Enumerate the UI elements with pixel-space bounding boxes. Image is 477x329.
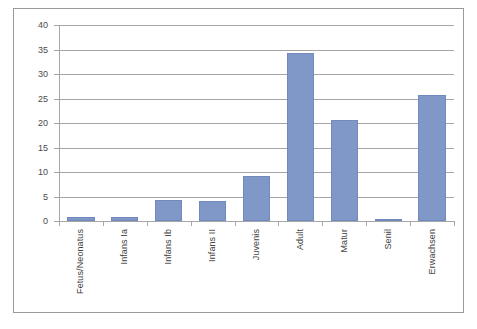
x-axis-label: Infans II xyxy=(208,229,217,262)
y-tick-mark-25 xyxy=(54,99,59,100)
bar[interactable] xyxy=(418,95,445,221)
x-label-slot: Matur xyxy=(322,229,366,311)
y-tick-mark-30 xyxy=(54,74,59,75)
bar[interactable] xyxy=(375,219,402,221)
gridline-30 xyxy=(59,74,454,75)
x-tick-mark xyxy=(278,221,279,226)
bar[interactable] xyxy=(331,120,358,221)
y-tick-label: 40 xyxy=(14,21,48,30)
x-tick-mark xyxy=(191,221,192,226)
x-axis-label: Adult xyxy=(296,229,305,250)
bar[interactable] xyxy=(287,53,314,221)
y-tick-label: 35 xyxy=(14,46,48,55)
x-axis-label: Infans Ia xyxy=(120,229,129,264)
gridline-25 xyxy=(59,99,454,100)
gridline-15 xyxy=(59,148,454,149)
x-tick-mark xyxy=(454,221,455,226)
x-tick-mark xyxy=(147,221,148,226)
x-label-slot: Infans Ia xyxy=(103,229,147,311)
y-tick-label: 20 xyxy=(14,119,48,128)
x-label-slot: Infans II xyxy=(191,229,235,311)
y-tick-mark-10 xyxy=(54,172,59,173)
gridline-0 xyxy=(59,221,454,222)
gridline-35 xyxy=(59,50,454,51)
x-axis-label: Fetus/Neonatus xyxy=(76,229,85,294)
y-tick-label: 25 xyxy=(14,95,48,104)
x-tick-mark xyxy=(103,221,104,226)
y-tick-mark-40 xyxy=(54,25,59,26)
chart-frame: 0510152025303540Fetus/NeonatusInfans IaI… xyxy=(13,8,464,313)
bar[interactable] xyxy=(155,200,182,221)
x-axis-label: Erwachsen xyxy=(428,229,437,274)
x-axis-label: Juvenis xyxy=(252,229,261,260)
x-label-slot: Infans Ib xyxy=(147,229,191,311)
x-tick-mark xyxy=(410,221,411,226)
x-label-slot: Adult xyxy=(278,229,322,311)
x-label-slot: Fetus/Neonatus xyxy=(59,229,103,311)
bar[interactable] xyxy=(199,201,226,221)
y-tick-label: 30 xyxy=(14,70,48,79)
gridline-40 xyxy=(59,25,454,26)
y-tick-mark-20 xyxy=(54,123,59,124)
plot-area xyxy=(59,25,454,221)
y-tick-label: 15 xyxy=(14,144,48,153)
y-tick-label: 0 xyxy=(14,217,48,226)
x-label-slot: Erwachsen xyxy=(410,229,454,311)
gridline-10 xyxy=(59,172,454,173)
y-tick-label: 5 xyxy=(14,193,48,202)
x-axis-label: Infans Ib xyxy=(164,229,173,264)
x-label-slot: Juvenis xyxy=(235,229,279,311)
x-tick-mark xyxy=(235,221,236,226)
y-tick-mark-15 xyxy=(54,148,59,149)
x-tick-mark xyxy=(59,221,60,226)
bar[interactable] xyxy=(67,217,94,221)
y-tick-label: 10 xyxy=(14,168,48,177)
y-tick-mark-5 xyxy=(54,197,59,198)
x-axis-label: Matur xyxy=(340,229,349,253)
x-label-slot: Senil xyxy=(366,229,410,311)
gridline-20 xyxy=(59,123,454,124)
bar[interactable] xyxy=(243,176,270,221)
x-axis-label: Senil xyxy=(384,229,393,250)
x-tick-mark xyxy=(366,221,367,226)
y-tick-mark-35 xyxy=(54,50,59,51)
x-tick-mark xyxy=(322,221,323,226)
bar[interactable] xyxy=(111,217,138,221)
